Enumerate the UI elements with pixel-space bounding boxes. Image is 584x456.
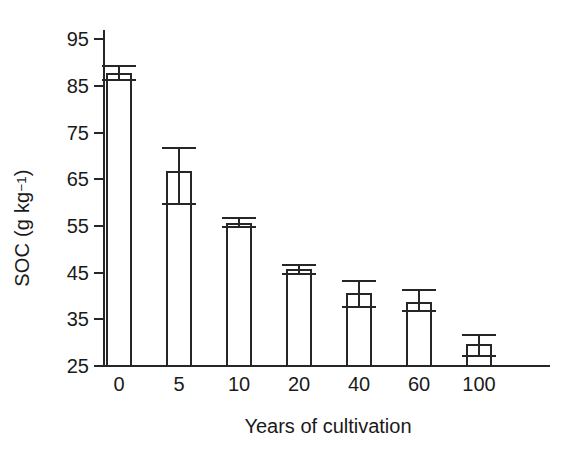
y-tick-label-95: 95	[45, 29, 89, 49]
y-tick-95	[94, 38, 103, 40]
error-bar-cap-lower-5	[162, 203, 196, 205]
error-bar-cap-upper-10	[222, 217, 256, 219]
y-tick-85	[94, 85, 103, 87]
bar-20	[286, 269, 312, 365]
y-tick-25	[94, 365, 103, 367]
plot-area: 2535455565758595 0510204060100	[103, 30, 553, 366]
y-tick-55	[94, 225, 103, 227]
error-bar-line-5	[178, 148, 180, 204]
error-bar-cap-lower-100	[462, 355, 496, 357]
error-bar-cap-upper-40	[342, 280, 376, 282]
bars-layer	[103, 30, 553, 366]
x-tick-label-100: 100	[444, 374, 514, 394]
bar-0	[106, 73, 132, 365]
y-tick-label-65: 65	[45, 169, 89, 189]
error-bar-cap-lower-40	[342, 306, 376, 308]
error-bar-line-100	[478, 335, 480, 356]
error-bar-cap-upper-20	[282, 264, 316, 266]
error-bar-cap-lower-60	[402, 310, 436, 312]
y-tick-65	[94, 178, 103, 180]
error-bar-line-0	[118, 66, 120, 80]
y-tick-label-55: 55	[45, 216, 89, 236]
error-bar-cap-upper-100	[462, 334, 496, 336]
y-tick-label-75: 75	[45, 123, 89, 143]
error-bar-cap-upper-5	[162, 147, 196, 149]
error-bar-cap-upper-60	[402, 289, 436, 291]
y-axis-label-lead: SOC (g kg	[11, 192, 34, 287]
error-bar-line-40	[358, 281, 360, 307]
error-bar-cap-lower-10	[222, 226, 256, 228]
y-tick-label-45: 45	[45, 263, 89, 283]
error-bar-cap-upper-0	[102, 65, 136, 67]
y-tick-75	[94, 132, 103, 134]
y-tick-label-35: 35	[45, 309, 89, 329]
y-tick-45	[94, 272, 103, 274]
error-bar-cap-lower-0	[102, 79, 136, 81]
error-bar-line-60	[418, 290, 420, 311]
y-axis-label: SOC (g kg−1)	[0, 0, 44, 456]
y-tick-label-85: 85	[45, 76, 89, 96]
x-axis-label: Years of cultivation	[103, 415, 553, 438]
y-tick-label-25: 25	[45, 356, 89, 376]
y-tick-35	[94, 318, 103, 320]
y-axis-label-tail: )	[11, 169, 34, 176]
bar-10	[226, 223, 252, 365]
error-bar-cap-lower-20	[282, 273, 316, 275]
chart-figure: SOC (g kg−1) 2535455565758595 0510204060…	[0, 0, 584, 456]
